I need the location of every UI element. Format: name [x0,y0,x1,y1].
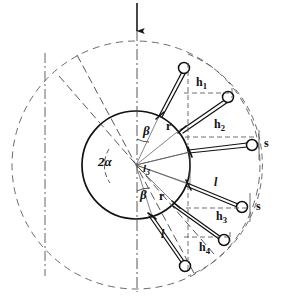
label-l3: l3 [143,163,150,177]
label-r-lower: r [159,190,164,202]
roller-4 [237,202,248,213]
mechanism-diagram: h1 h2 h3 h4 s s l l l3 r r β β 2α [0,0,281,300]
diagram-canvas [0,0,281,300]
label-two-alpha: 2α [98,155,112,168]
label-h1: h1 [196,76,207,91]
roller-3 [247,140,258,151]
label-beta-upper: β [143,124,150,137]
label-l-lower: l [161,228,164,240]
label-s-upper: s [264,137,269,149]
label-l-upper: l [214,176,217,188]
label-r-upper: r [166,120,171,132]
roller-6 [180,261,191,272]
label-h3: h3 [216,210,227,225]
label-s-lower: s [256,200,261,212]
label-beta-lower: β [140,188,147,201]
label-h2: h2 [214,118,225,133]
roller-5 [219,235,230,246]
label-h4: h4 [199,241,210,256]
